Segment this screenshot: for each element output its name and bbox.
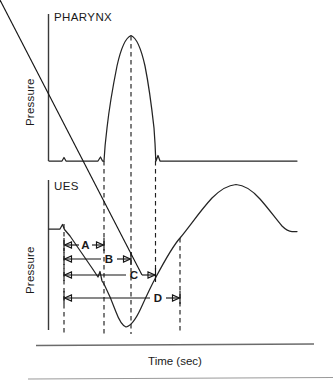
pharynx-trace [49,36,297,162]
pharynx-panel: Pressure PHARYNX [24,11,297,161]
measurement-C: C [0,0,156,281]
measurement-C-label: C [130,269,138,281]
measurement-A: A [64,238,104,251]
time-axis-label: Time (sec) [148,355,202,367]
measurement-D: D [64,291,180,304]
ues-panel: Pressure UES [24,180,297,330]
manometry-figure: Pressure PHARYNX Pressure [0,0,333,383]
time-axis-line [36,344,314,346]
ues-panel-label: UES [54,180,79,192]
time-axis-group: Time (sec) [28,344,333,379]
reference-dashed-lines [64,36,180,334]
pharynx-panel-label: PHARYNX [54,11,112,23]
figure-canvas: Pressure PHARYNX Pressure [0,0,333,383]
pharynx-y-axis-label: Pressure [24,78,36,126]
measurement-D-label: D [154,292,162,304]
measurement-A-label: A [81,239,89,251]
ues-trace [49,185,297,328]
measurement-B: B [64,252,131,265]
ues-y-axis-label: Pressure [24,246,36,294]
page-bottom-rule [28,378,333,380]
measurement-C-line-right [0,0,142,275]
measurement-B-label: B [105,253,113,265]
